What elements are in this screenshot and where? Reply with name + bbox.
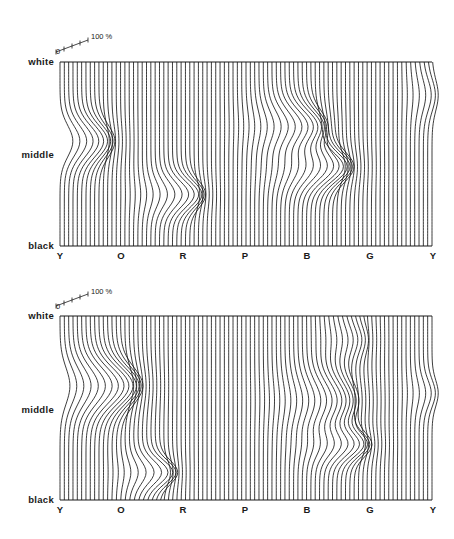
- sheet-line: [259, 316, 260, 500]
- scale-zero-label-top: 0: [56, 47, 60, 56]
- sheet-line: [354, 62, 357, 246]
- sheet-line: [384, 316, 385, 500]
- sheet-line: [350, 62, 354, 246]
- sheet-line: [406, 316, 407, 500]
- sheet-line: [216, 62, 217, 246]
- x-label-orange-top: O: [114, 250, 128, 261]
- sheet-line: [125, 316, 134, 500]
- y-label-black-top: black: [0, 240, 54, 251]
- sheet-line: [311, 316, 327, 500]
- sheet-line: [428, 62, 436, 246]
- sheet-line: [246, 62, 249, 246]
- sheet-line: [164, 316, 171, 500]
- sheet-line: [60, 62, 73, 246]
- sheet-line: [410, 316, 413, 500]
- sheet-line: [281, 62, 302, 246]
- sheet-line: [263, 316, 264, 500]
- sheet-line: [147, 316, 168, 500]
- sheet-line: [389, 316, 390, 500]
- x-label-green-top: G: [363, 250, 377, 261]
- sheet-line: [181, 316, 182, 500]
- sheet-line: [207, 62, 209, 246]
- sheet-line: [233, 62, 234, 246]
- panel-bottom: [60, 316, 438, 500]
- x-label-blue-bottom: B: [300, 504, 314, 515]
- sheet-line: [82, 316, 106, 500]
- sheet-line: [112, 62, 116, 246]
- sheet-line: [380, 316, 382, 500]
- sheet-line: [103, 62, 109, 246]
- scale-axis-icon: [56, 38, 88, 55]
- sheet-line: [211, 62, 212, 246]
- sheet-line: [402, 316, 403, 500]
- sheet-line: [376, 316, 378, 500]
- sheet-line: [376, 62, 377, 246]
- sheet-line: [428, 316, 436, 500]
- y-label-white-bottom: white: [0, 310, 54, 321]
- sheet-line: [185, 316, 186, 500]
- sheet-line: [302, 316, 315, 500]
- sheet-line: [358, 62, 360, 246]
- x-label-green-bottom: G: [363, 504, 377, 515]
- sheet-line: [155, 62, 167, 246]
- sheet-line: [138, 62, 141, 246]
- sheet-line: [198, 62, 202, 246]
- sheet-line: [237, 62, 238, 246]
- x-label-purple-bottom: P: [238, 504, 252, 515]
- x-label-blue-top: B: [300, 250, 314, 261]
- scale-axis-icon: [56, 292, 88, 309]
- sheet-line: [129, 62, 130, 246]
- sheet-line: [281, 316, 286, 500]
- x-label-red-bottom: R: [176, 504, 190, 515]
- x-label-purple-top: P: [238, 250, 252, 261]
- sheet-line: [406, 62, 407, 246]
- scale-max-label-top: 100 %: [91, 32, 112, 41]
- sheet-line: [203, 62, 206, 246]
- panel-top: [60, 62, 438, 246]
- sheet-line: [142, 62, 146, 246]
- sheet-line: [272, 316, 275, 500]
- sheet-line: [432, 316, 438, 500]
- x-label-yellow-end-bottom: Y: [426, 504, 440, 515]
- x-label-yellow-start-bottom: Y: [53, 504, 67, 515]
- sheet-line: [294, 62, 318, 246]
- sheet-line: [363, 62, 365, 246]
- sheet-line: [116, 62, 119, 246]
- sheet-line: [371, 62, 372, 246]
- sheet-line: [328, 62, 352, 246]
- sheet-line: [402, 62, 403, 246]
- sheet-line: [298, 62, 322, 246]
- sheet-line: [410, 62, 413, 246]
- sheet-line: [125, 62, 126, 246]
- sheet-line: [289, 62, 313, 246]
- sheet-line: [419, 62, 426, 246]
- sheet-line: [77, 62, 98, 246]
- sheet-line: [285, 316, 291, 500]
- sheet-line: [121, 62, 123, 246]
- sheet-line: [324, 316, 342, 500]
- sheet-line: [64, 316, 76, 500]
- y-label-black-bottom: black: [0, 494, 54, 505]
- sheet-line: [367, 316, 372, 500]
- scale-max-label-bottom: 100 %: [91, 287, 112, 296]
- y-label-middle-bottom: middle: [0, 404, 54, 415]
- x-label-red-top: R: [176, 250, 190, 261]
- figure: 0 100 % white middle black Y O R P B G Y…: [0, 0, 454, 539]
- x-label-yellow-start-top: Y: [53, 250, 67, 261]
- sheet-line: [276, 316, 279, 500]
- sheet-line: [371, 316, 374, 500]
- sheet-line: [250, 62, 254, 246]
- x-label-orange-bottom: O: [114, 504, 128, 515]
- sheet-line: [320, 316, 338, 500]
- sheet-line: [121, 316, 143, 500]
- sheet-line: [419, 316, 426, 500]
- sheet-line: [242, 62, 244, 246]
- sheet-line-plots: [0, 0, 454, 539]
- x-label-yellow-end-top: Y: [426, 250, 440, 261]
- sheet-line: [367, 62, 368, 246]
- sheet-line: [172, 62, 194, 246]
- sheet-line: [134, 62, 136, 246]
- sheet-line: [272, 62, 288, 246]
- y-label-middle-top: middle: [0, 149, 54, 160]
- y-label-white-top: white: [0, 56, 54, 67]
